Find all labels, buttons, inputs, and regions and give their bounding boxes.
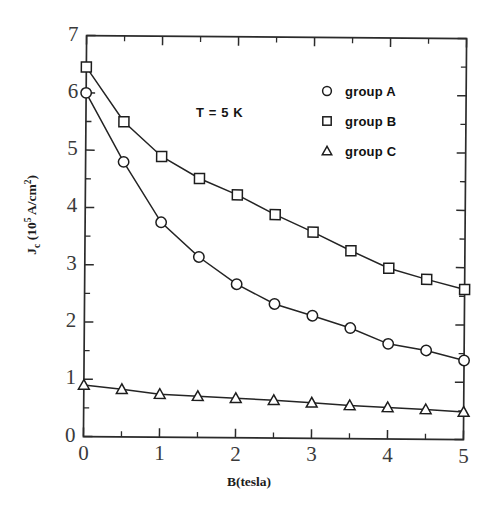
- data-point: [156, 217, 166, 227]
- data-point: [384, 263, 394, 273]
- data-point: [421, 345, 431, 355]
- x-tick-label: 5: [450, 444, 476, 469]
- series-group-c: [78, 380, 469, 417]
- y-axis-label: Jc (105 A/cm2): [22, 120, 42, 310]
- data-point: [119, 117, 129, 127]
- data-point: [308, 227, 318, 237]
- x-tick-label: 2: [222, 442, 248, 467]
- y-tick-label: 5: [52, 136, 78, 161]
- legend-item-group-c[interactable]: group C: [318, 136, 468, 166]
- data-point: [194, 173, 204, 183]
- legend: group Agroup Bgroup C: [318, 76, 468, 166]
- data-point: [460, 284, 470, 294]
- data-point: [81, 62, 91, 72]
- data-point: [459, 355, 469, 365]
- legend-label: group A: [345, 84, 396, 99]
- x-tick-label: 1: [146, 441, 172, 466]
- square-icon: [318, 112, 336, 130]
- circle-icon: [318, 82, 336, 100]
- data-point: [231, 279, 241, 289]
- data-point: [78, 380, 89, 390]
- data-point: [157, 151, 167, 161]
- y-axis-label-text: Jc (105 A/cm2): [24, 175, 39, 255]
- legend-label: group B: [345, 114, 396, 129]
- y-tick-label: 4: [51, 193, 77, 218]
- y-tick-label: 6: [52, 79, 78, 104]
- data-point: [118, 157, 128, 167]
- legend-label: group C: [345, 144, 396, 159]
- legend-item-group-b[interactable]: group B: [318, 106, 468, 136]
- y-tick-label: 3: [51, 251, 77, 276]
- data-point: [422, 274, 432, 284]
- y-tick-label: 1: [50, 365, 76, 390]
- data-point: [346, 246, 356, 256]
- data-point: [269, 299, 279, 309]
- data-point: [232, 190, 242, 200]
- temperature-annotation: T = 5 K: [196, 105, 243, 120]
- x-tick-label: 3: [298, 442, 324, 467]
- data-point: [81, 88, 91, 98]
- data-point: [194, 252, 204, 262]
- legend-item-group-a[interactable]: group A: [318, 76, 468, 106]
- y-tick-label: 2: [50, 308, 76, 333]
- y-tick-label: 7: [53, 22, 79, 47]
- triangle-icon: [318, 142, 336, 160]
- data-point: [345, 323, 355, 333]
- x-tick-label: 4: [374, 443, 400, 468]
- data-point: [383, 339, 393, 349]
- data-point: [270, 210, 280, 220]
- x-tick-label: 0: [70, 441, 96, 466]
- figure-jc-vs-b: 01234567012345 Jc (105 A/cm2) B(tesla) T…: [0, 0, 498, 515]
- data-point: [307, 311, 317, 321]
- x-axis-label: B(tesla): [0, 474, 498, 490]
